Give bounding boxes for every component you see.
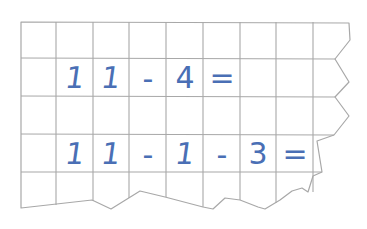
grid-paper-svg — [0, 0, 367, 229]
equals-sign-cell: = — [277, 135, 313, 173]
digit-cell: 1 — [90, 59, 131, 97]
torn-graph-paper-worksheet: 1 1 - 4 = 1 1 - 1 - 3 = — [0, 0, 367, 229]
equals-sign-cell: = — [204, 59, 240, 97]
digit-cell: 4 — [167, 59, 203, 97]
minus-sign-cell: - — [130, 60, 166, 98]
digit-cell: 1 — [164, 135, 205, 173]
digit-cell: 1 — [54, 59, 95, 97]
minus-sign-cell: - — [204, 136, 240, 174]
digit-cell: 3 — [240, 135, 276, 173]
minus-sign-cell: - — [130, 136, 166, 174]
paper-outline — [21, 22, 350, 209]
digit-cell: 1 — [90, 135, 131, 173]
digit-cell: 1 — [54, 135, 95, 173]
